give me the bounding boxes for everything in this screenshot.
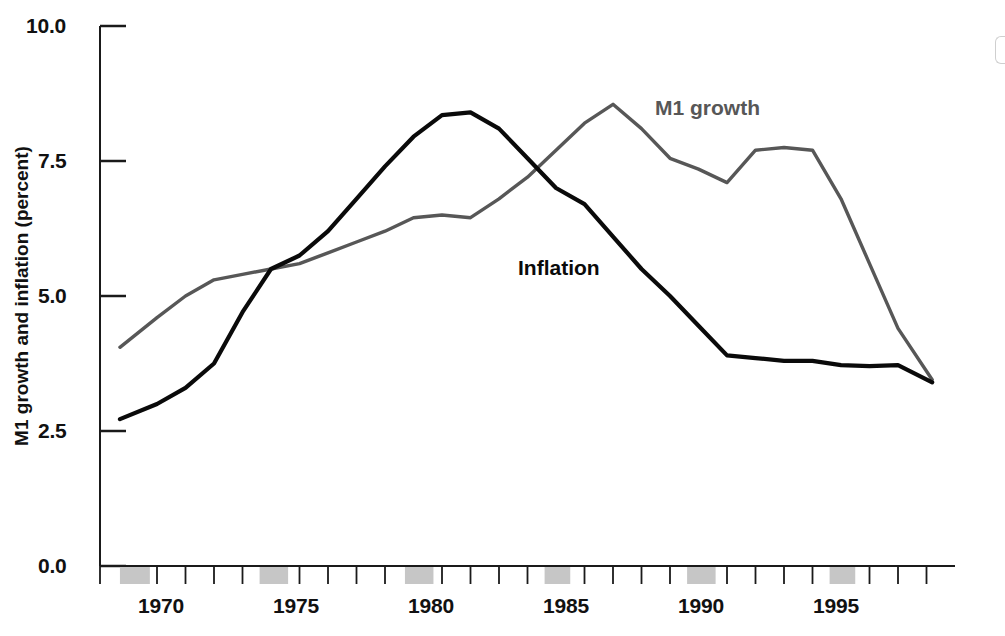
- y-tick-label-10: 10.0: [26, 14, 66, 38]
- line-chart-canvas: M1 growth and inflation (percent): [0, 0, 1005, 636]
- x-tick-label-1985: 1985: [543, 594, 589, 618]
- x-axis-ticks: [100, 566, 927, 584]
- x-tick-label-1980: 1980: [408, 594, 454, 618]
- y-axis-ticks: [100, 26, 126, 566]
- x-tick-label-1970: 1970: [138, 594, 184, 618]
- x-tick-label-1995: 1995: [813, 594, 859, 618]
- y-axis-label: M1 growth and inflation (percent): [11, 146, 32, 446]
- y-tick-label-7point5: 7.5: [38, 149, 67, 173]
- axis-lines: [100, 26, 955, 566]
- x-tick-label-1990: 1990: [678, 594, 724, 618]
- chart-figure: M1 growth and inflation (percent) 10.0 7…: [0, 0, 1005, 636]
- x-tick-label-1975: 1975: [273, 594, 319, 618]
- page-edge-mark: [995, 36, 1005, 64]
- y-tick-label-2point5: 2.5: [38, 419, 67, 443]
- series-line-m1-growth: [120, 104, 932, 379]
- series-label-m1-growth: M1 growth: [655, 96, 760, 120]
- series-label-inflation: Inflation: [518, 256, 600, 280]
- recession-bands: [120, 567, 855, 584]
- y-tick-label-5: 5.0: [38, 284, 67, 308]
- y-tick-label-0: 0.0: [38, 554, 67, 578]
